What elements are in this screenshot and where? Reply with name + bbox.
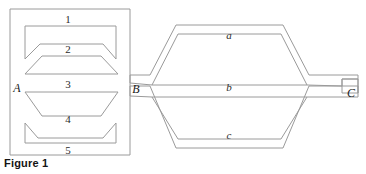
segment-label-4: 4 xyxy=(65,113,71,125)
left-channel-bottom xyxy=(25,123,116,143)
figure-container: 1 2 3 4 5 a b c A B C Figure 1 xyxy=(0,0,366,174)
left-channel-lower-mid xyxy=(25,92,118,116)
network-diagram: 1 2 3 4 5 a b c A B C xyxy=(0,0,366,174)
branch-label-a: a xyxy=(226,29,232,41)
segment-label-1: 1 xyxy=(65,13,71,25)
left-channel-upper-mid xyxy=(25,56,118,74)
segment-label-5: 5 xyxy=(65,144,71,156)
junction-b-neck-lower xyxy=(130,96,152,97)
node-label-c: C xyxy=(347,86,356,100)
segment-label-3: 3 xyxy=(65,78,71,90)
segment-label-2: 2 xyxy=(65,43,71,55)
figure-caption: Figure 1 xyxy=(4,157,48,169)
branch-label-b: b xyxy=(226,81,232,93)
node-label-b: B xyxy=(132,82,140,96)
right-upper-outer-outline xyxy=(130,25,358,93)
right-upper-channel-a xyxy=(152,34,307,85)
node-label-a: A xyxy=(12,81,21,95)
branch-label-c: c xyxy=(227,129,232,141)
